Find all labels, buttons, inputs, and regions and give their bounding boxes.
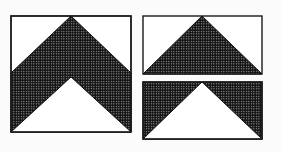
bottom-inverted-rect-block xyxy=(143,82,262,139)
top-triangle-rect-block xyxy=(143,16,262,74)
quilt-diagram xyxy=(0,0,281,152)
chevron-square-block xyxy=(11,16,131,132)
